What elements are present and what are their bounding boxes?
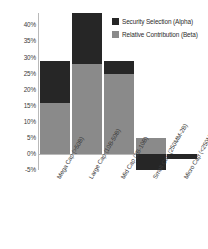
legend-item[interactable]: Relative Contribution (Beta) [112, 31, 198, 38]
y-axis-tick-label: 25% [2, 71, 36, 77]
legend-item[interactable]: Security Selection (Alpha) [112, 18, 198, 25]
legend-item-label: Relative Contribution (Beta) [122, 31, 198, 38]
y-axis-tick-label: 5% [2, 135, 36, 141]
legend-swatch-icon [112, 18, 119, 25]
y-axis-tick-labels: 40%35%30%25%20%15%10%5%0%-5% [0, 0, 36, 249]
legend-item-label: Security Selection (Alpha) [122, 18, 193, 25]
y-axis-tick-label: 30% [2, 55, 36, 61]
y-axis-tick-label: -5% [2, 167, 36, 173]
y-axis-tick-label: 0% [2, 151, 36, 157]
y-axis-tick-label: 35% [2, 38, 36, 44]
y-axis-tick-label: 15% [2, 103, 36, 109]
y-axis-tick-label: 40% [2, 22, 36, 28]
bar-segment-alpha [72, 13, 102, 64]
bar-segment-beta [40, 103, 70, 154]
bar-segment-alpha [104, 61, 134, 74]
chart-legend: Security Selection (Alpha)Relative Contr… [112, 18, 198, 44]
y-axis-tick-label: 10% [2, 119, 36, 125]
bar-segment-alpha [40, 61, 70, 103]
y-axis-tick-label: 20% [2, 87, 36, 93]
legend-swatch-icon [112, 31, 119, 38]
stacked-bar-chart: 40%35%30%25%20%15%10%5%0%-5% Mega Cap (>… [0, 0, 208, 249]
